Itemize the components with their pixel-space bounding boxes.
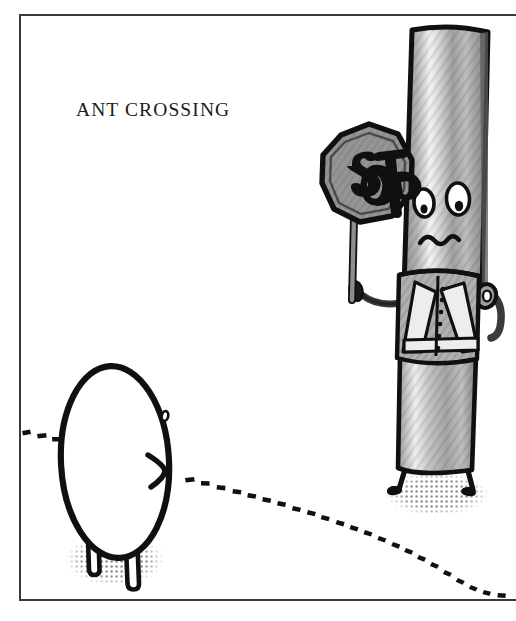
vest-button [437, 334, 442, 339]
guard-left-pupil [420, 204, 427, 213]
vest-button [438, 322, 443, 327]
vest-stripe-bottom [404, 338, 478, 352]
vest-button [436, 346, 441, 351]
vest-button [441, 287, 446, 292]
vest-button [439, 310, 444, 315]
cartoon-illustration: ANT CROSSING [0, 0, 516, 621]
page-title: ANT CROSSING [76, 99, 230, 120]
ant-eye [161, 410, 169, 421]
safety-vest [397, 271, 479, 364]
cartoon-canvas: ANT CROSSING [0, 0, 516, 621]
guard-right-pupil [455, 201, 463, 211]
vest-button [440, 298, 445, 303]
